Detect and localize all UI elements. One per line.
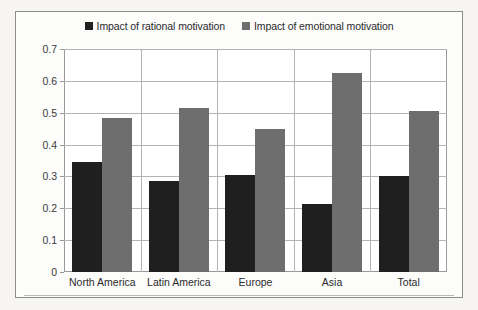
legend-swatch-rational-icon — [85, 22, 93, 30]
x-axis-labels: North AmericaLatin AmericaEuropeAsiaTota… — [64, 276, 447, 288]
bar[interactable] — [409, 111, 439, 272]
bar-group — [64, 49, 141, 272]
bar-group — [141, 49, 218, 272]
x-tick-label: North America — [64, 276, 141, 288]
bar[interactable] — [102, 118, 132, 273]
bar-group — [217, 49, 294, 272]
legend-label-emotional: Impact of emotional motivation — [254, 20, 393, 32]
y-tick-label: 0.6 — [42, 75, 57, 87]
x-tick-label: Europe — [217, 276, 294, 288]
bars-layer — [64, 49, 447, 272]
bar[interactable] — [255, 129, 285, 272]
bar[interactable] — [179, 108, 209, 272]
bar[interactable] — [149, 181, 179, 272]
bar[interactable] — [332, 73, 362, 272]
y-tick-label: 0.5 — [42, 107, 57, 119]
y-tick-label: 0.7 — [42, 43, 57, 55]
y-tick-label: 0 — [51, 266, 57, 278]
bar[interactable] — [225, 175, 255, 272]
x-tick-label: Asia — [294, 276, 371, 288]
chart-frame: Impact of rational motivation Impact of … — [15, 11, 463, 298]
x-tick-label: Latin America — [141, 276, 218, 288]
legend-label-rational: Impact of rational motivation — [97, 20, 225, 32]
bar[interactable] — [72, 162, 102, 272]
y-tick-mark — [60, 272, 64, 273]
plot-wrapper: 00.10.20.30.40.50.60.7 — [64, 49, 447, 272]
x-tick-label: Total — [370, 276, 447, 288]
bar[interactable] — [379, 176, 409, 272]
y-tick-label: 0.3 — [42, 170, 57, 182]
legend-item-rational[interactable]: Impact of rational motivation — [85, 20, 225, 32]
bar-group — [294, 49, 371, 272]
y-tick-label: 0.2 — [42, 202, 57, 214]
bar-group — [370, 49, 447, 272]
x-axis-underline — [24, 295, 454, 296]
bar[interactable] — [302, 204, 332, 272]
legend-swatch-emotional-icon — [242, 22, 250, 30]
y-tick-label: 0.1 — [42, 234, 57, 246]
legend-item-emotional[interactable]: Impact of emotional motivation — [242, 20, 393, 32]
y-tick-label: 0.4 — [42, 139, 57, 151]
chart-legend: Impact of rational motivation Impact of … — [16, 17, 462, 34]
